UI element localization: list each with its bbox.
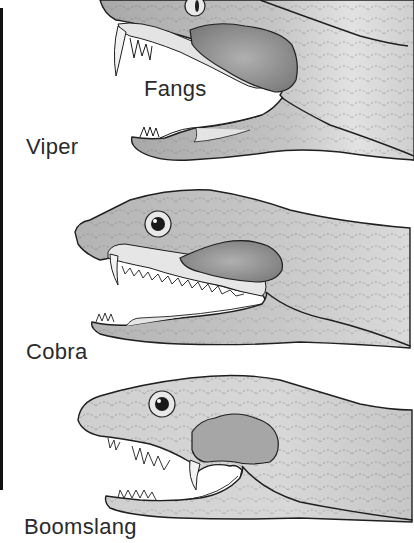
cobra-head: [75, 190, 410, 348]
fangs-annotation: Fangs: [144, 78, 207, 100]
boomslang-label: Boomslang: [24, 516, 137, 538]
viper-label: Viper: [26, 136, 78, 158]
snake-heads-illustration: [0, 0, 414, 543]
cobra-label: Cobra: [26, 341, 87, 363]
boomslang-head: [78, 375, 412, 522]
